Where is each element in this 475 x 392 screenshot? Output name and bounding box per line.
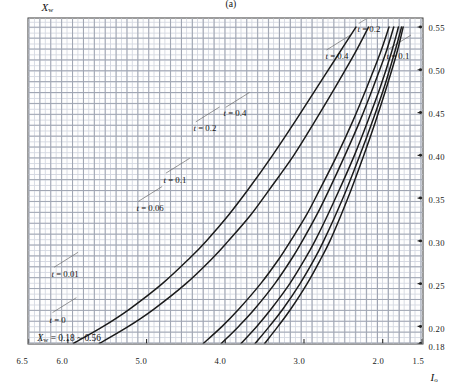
figure-caption: (a) <box>225 0 236 8</box>
curve-0.4 <box>264 27 403 343</box>
curve-label: t = 0.1 <box>386 50 409 60</box>
label-leader-line <box>165 158 189 173</box>
figure-canvas: Xw = 0.18 ~ 0.56 Xw Io (a) 0.180.200.250… <box>0 0 475 392</box>
curve-layer <box>28 18 422 343</box>
curve-label: t = 0 <box>49 314 65 324</box>
x-tick-label: 0.20 <box>428 323 444 333</box>
y-tick-label: 4.0 <box>214 355 226 365</box>
label-leader-line <box>358 18 382 23</box>
curve-0.06 <box>203 27 389 343</box>
label-leader-line <box>54 252 78 267</box>
y-tick-label: 2.0 <box>372 355 384 365</box>
curve-label: t = 0.2 <box>357 23 380 33</box>
y-tick-label: 3.0 <box>293 355 305 365</box>
curve-label: t = 0.4 <box>223 107 246 117</box>
x-axis-title: Xw <box>41 0 53 13</box>
x-tick-label: 0.45 <box>428 108 444 118</box>
curve-0.4 <box>255 27 401 343</box>
plot-area <box>27 17 423 344</box>
curve-0.1 <box>221 27 393 343</box>
curve-label: t = 0.4 <box>325 50 348 60</box>
x-tick-label: 0.50 <box>428 65 444 75</box>
range-annotation: Xw = 0.18 ~ 0.56 <box>37 332 100 343</box>
y-tick-label: 1.5 <box>412 355 424 365</box>
curve-label: t = 0.01 <box>51 268 78 278</box>
label-leader-line <box>138 186 162 201</box>
x-tick-label: 0.55 <box>428 22 444 32</box>
y-axis-title: Io <box>430 370 437 383</box>
curve-0.01 <box>99 27 368 343</box>
label-leader-line <box>225 92 249 107</box>
curve-label: t = 0.06 <box>136 202 163 212</box>
curve-label: t = 0.1 <box>163 174 186 184</box>
y-tick-label: 5.0 <box>135 355 147 365</box>
rotated-figure-group: Xw = 0.18 ~ 0.56 Xw Io (a) 0.180.200.250… <box>0 0 475 392</box>
curve-0.2 <box>241 27 398 343</box>
curve-0 <box>73 27 356 343</box>
label-leader-line <box>52 297 76 312</box>
x-tick-label: 0.18 <box>428 341 444 351</box>
x-tick-label: 0.35 <box>428 194 444 204</box>
x-tick-dot <box>418 342 421 343</box>
x-tick-label: 0.30 <box>428 237 444 247</box>
range-annotation-value: = 0.18 ~ 0.56 <box>50 332 100 342</box>
y-tick-label: 6.5 <box>16 355 28 365</box>
y-tick-label: 6.0 <box>56 355 68 365</box>
curve-label: t = 0.2 <box>193 122 216 132</box>
x-tick-label: 0.40 <box>428 151 444 161</box>
x-tick-label: 0.25 <box>428 280 444 290</box>
label-leader-line <box>195 106 219 121</box>
